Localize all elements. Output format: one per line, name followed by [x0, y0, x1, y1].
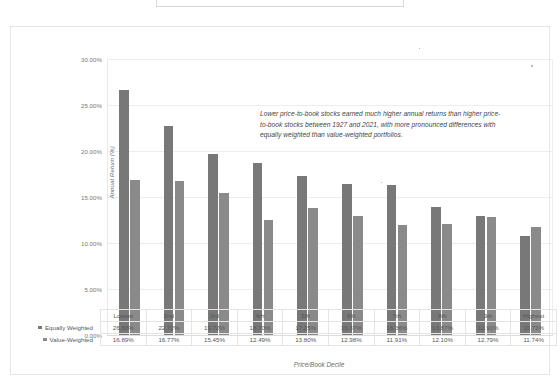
- y-tick-label: 30.00%: [81, 56, 102, 63]
- table-value-cell: 12.98%: [328, 334, 374, 346]
- artifact-speck-1: [419, 48, 420, 49]
- bar-equally-weighted: [164, 126, 174, 335]
- table-value-cell: 15.45%: [192, 334, 238, 346]
- bar-group: [119, 59, 140, 335]
- legend-swatch-icon: [43, 338, 47, 342]
- table-category-cell: Lowest: [101, 310, 147, 322]
- y-axis-title: Annual Return (%): [108, 113, 115, 233]
- table-category-cell: 3rd: [192, 310, 238, 322]
- table-category-cell: 2nd: [146, 310, 192, 322]
- table-value-cell: 13.87%: [420, 322, 466, 334]
- y-tick-label: 15.00%: [81, 194, 102, 201]
- y-tick-label: 10.00%: [81, 240, 102, 247]
- table-value-cell: 11.91%: [374, 334, 420, 346]
- table-value-cell: 16.89%: [101, 334, 147, 346]
- table-value-cell: 16.37%: [328, 322, 374, 334]
- bar-equally-weighted: [119, 90, 129, 335]
- legend-swatch-icon: [38, 326, 42, 330]
- artifact-speck-2: [531, 65, 533, 67]
- table-value-cell: 13.80%: [283, 334, 329, 346]
- table-value-cell: 12.10%: [420, 334, 466, 346]
- chart-annotation-text: Lower price-to-book stocks earned much h…: [260, 109, 505, 141]
- table-value-cell: 12.91%: [465, 322, 511, 334]
- bar-group: [253, 59, 274, 335]
- table-value-cell: 18.70%: [237, 322, 283, 334]
- bar-group: [387, 59, 408, 335]
- plot-area: 0.00%5.00%10.00%15.00%20.00%25.00%30.00%…: [107, 59, 553, 335]
- chart-title-box: [156, 0, 404, 7]
- table-row: Value-Weighted16.89%16.77%15.45%12.49%13…: [10, 334, 556, 346]
- y-tick-label: 5.00%: [84, 286, 102, 293]
- bar-group: [297, 59, 318, 335]
- bar-equally-weighted: [208, 154, 218, 335]
- table-category-cell: 9th: [465, 310, 511, 322]
- table-value-cell: 12.49%: [237, 334, 283, 346]
- table-row-header-equally-weighted: Equally Weighted: [10, 322, 101, 334]
- table-value-cell: 16.77%: [146, 334, 192, 346]
- y-tick-label: 25.00%: [81, 102, 102, 109]
- table-value-cell: 12.79%: [465, 334, 511, 346]
- table-category-row: Lowest2nd3rd4th5th6th7th8th9thHighest: [10, 310, 556, 322]
- legend-label: Value-Weighted: [50, 336, 93, 343]
- table-value-cell: 10.71%: [511, 322, 557, 334]
- table-row: Equally Weighted26.68%22.72%19.72%18.70%…: [10, 322, 556, 334]
- table-category-cell: 8th: [420, 310, 466, 322]
- artifact-speck-3: [381, 182, 382, 183]
- table-category-cell: 5th: [283, 310, 329, 322]
- legend-label: Equally Weighted: [45, 324, 93, 331]
- table-category-cell: 6th: [328, 310, 374, 322]
- table-row-header-value-weighted: Value-Weighted: [10, 334, 101, 346]
- data-table: Lowest2nd3rd4th5th6th7th8th9thHighestEqu…: [10, 309, 557, 346]
- table-category-cell: Highest: [511, 310, 557, 322]
- bar-group: [208, 59, 229, 335]
- bar-group: [520, 59, 541, 335]
- y-tick-label: 20.00%: [81, 148, 102, 155]
- table-value-cell: 17.25%: [283, 322, 329, 334]
- legend-value-weighted: Value-Weighted: [10, 336, 96, 343]
- x-axis-title: Price/Book Decile: [96, 361, 542, 368]
- table-category-rowhead: [10, 310, 101, 322]
- table-value-cell: 26.68%: [101, 322, 147, 334]
- table-value-cell: 22.72%: [146, 322, 192, 334]
- table-value-cell: 11.74%: [511, 334, 557, 346]
- table-category-cell: 7th: [374, 310, 420, 322]
- bar-group: [342, 59, 363, 335]
- table-category-cell: 4th: [237, 310, 283, 322]
- bar-group: [476, 59, 497, 335]
- bar-group: [164, 59, 185, 335]
- bar-group: [431, 59, 452, 335]
- legend-equally-weighted: Equally Weighted: [10, 324, 96, 331]
- table-value-cell: 19.72%: [192, 322, 238, 334]
- table-value-cell: 16.36%: [374, 322, 420, 334]
